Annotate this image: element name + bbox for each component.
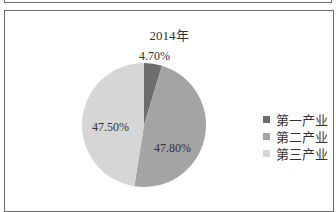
top-frame: [4, 0, 332, 3]
slice-label-secondary: 47.80%: [154, 141, 191, 155]
legend: 第一产业 第二产业 第三产业: [263, 111, 328, 162]
chart-frame: 2014年 4.70% 47.80% 47.50% 第一产业 第二产业 第三产业: [4, 10, 334, 212]
legend-swatch-icon: [263, 133, 270, 140]
legend-swatch-icon: [263, 116, 270, 123]
slice-label-tertiary: 47.50%: [92, 120, 129, 134]
legend-label: 第三产业: [276, 144, 328, 163]
legend-item-tertiary: 第三产业: [263, 145, 328, 162]
slice-label-primary: 4.70%: [139, 49, 170, 63]
legend-item-primary: 第一产业: [263, 111, 328, 128]
legend-item-secondary: 第二产业: [263, 128, 328, 145]
legend-swatch-icon: [263, 150, 270, 157]
